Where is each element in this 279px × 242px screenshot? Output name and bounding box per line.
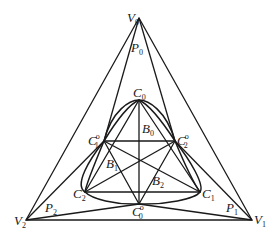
label-V0: V0 xyxy=(127,10,139,27)
label-P1: P1 xyxy=(225,200,238,217)
label-C1o: Co1 xyxy=(88,132,100,150)
label-V1: V1 xyxy=(254,212,266,229)
label-V2: V2 xyxy=(14,213,26,230)
label-C0o: Co0 xyxy=(132,203,144,221)
label-C1: C1 xyxy=(202,186,215,203)
label-B0: B0 xyxy=(142,121,154,138)
label-C2: C2 xyxy=(73,186,86,203)
curve-boundary xyxy=(81,100,201,204)
label-C2o: Co2 xyxy=(177,132,189,150)
label-B1: B1 xyxy=(106,156,118,173)
label-C0: C0 xyxy=(133,85,146,102)
point-labels: V0 P0 C0 B0 Co1 Co2 B1 B2 C2 C1 Co0 P2 P… xyxy=(14,10,266,230)
label-P0: P0 xyxy=(130,40,143,57)
label-B2: B2 xyxy=(152,173,164,190)
triangle-construction-diagram: V0 P0 C0 B0 Co1 Co2 B1 B2 C2 C1 Co0 P2 P… xyxy=(0,0,279,242)
label-P2: P2 xyxy=(44,200,57,217)
